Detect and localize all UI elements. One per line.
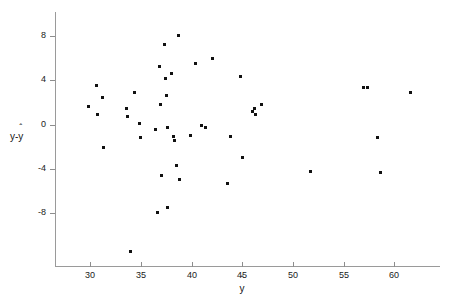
- data-point: [170, 72, 173, 75]
- data-point: [125, 107, 128, 110]
- data-point: [260, 103, 263, 106]
- data-point: [376, 136, 379, 139]
- y-axis-tick-label: 8: [24, 30, 46, 40]
- residual-scatter-plot: y-ŷ ŷ 840-4-830354045505560: [0, 0, 450, 307]
- x-axis-tick: [192, 262, 193, 267]
- x-axis-title-text: ŷ: [240, 283, 245, 294]
- data-point: [163, 43, 166, 46]
- data-point: [226, 182, 229, 185]
- data-point: [194, 62, 197, 65]
- data-point: [409, 91, 412, 94]
- data-point: [253, 107, 256, 110]
- y-axis-tick-label: 0: [24, 119, 46, 129]
- data-point: [239, 75, 242, 78]
- data-point: [362, 86, 365, 89]
- data-point: [173, 139, 176, 142]
- data-point: [129, 250, 132, 253]
- y-axis-title: y-ŷ: [10, 131, 23, 142]
- x-axis-line: [55, 266, 440, 267]
- data-point: [126, 115, 129, 118]
- y-axis-tick-label: -4: [24, 163, 46, 173]
- y-axis-tick: [50, 80, 55, 81]
- data-point: [211, 57, 214, 60]
- data-point: [379, 171, 382, 174]
- data-point: [164, 77, 167, 80]
- data-point: [95, 84, 98, 87]
- y-axis-tick: [50, 36, 55, 37]
- data-point: [178, 178, 181, 181]
- x-axis-tick-label: 60: [379, 270, 409, 280]
- data-point: [175, 164, 178, 167]
- y-axis-tick: [50, 213, 55, 214]
- data-point: [138, 122, 141, 125]
- data-point: [102, 146, 105, 149]
- x-axis-tick: [344, 262, 345, 267]
- data-point: [154, 128, 157, 131]
- y-axis-tick-label: -8: [24, 207, 46, 217]
- data-point: [241, 156, 244, 159]
- data-point: [133, 91, 136, 94]
- data-point: [158, 65, 161, 68]
- x-axis-tick-label: 45: [227, 270, 257, 280]
- data-point: [166, 126, 169, 129]
- data-point: [87, 105, 90, 108]
- y-axis-tick-label: 4: [24, 74, 46, 84]
- data-point: [189, 134, 192, 137]
- x-axis-tick: [90, 262, 91, 267]
- data-point: [165, 94, 168, 97]
- y-axis-tick: [50, 125, 55, 126]
- x-axis-tick: [242, 262, 243, 267]
- x-axis-tick-label: 35: [126, 270, 156, 280]
- data-point: [101, 96, 104, 99]
- data-point: [156, 211, 159, 214]
- x-axis-title: ŷ: [230, 283, 254, 294]
- data-point: [229, 135, 232, 138]
- y-axis-tick: [50, 169, 55, 170]
- x-axis-tick: [394, 262, 395, 267]
- x-axis-tick: [141, 262, 142, 267]
- data-point: [139, 136, 142, 139]
- x-axis-tick-label: 50: [278, 270, 308, 280]
- y-axis-title-text: y-ŷ: [10, 131, 23, 142]
- data-point: [166, 206, 169, 209]
- data-point: [177, 34, 180, 37]
- data-point: [254, 113, 257, 116]
- data-point: [309, 170, 312, 173]
- data-point: [366, 86, 369, 89]
- x-axis-tick: [293, 262, 294, 267]
- data-point: [160, 174, 163, 177]
- x-axis-tick-label: 40: [177, 270, 207, 280]
- y-axis-line: [55, 12, 56, 267]
- data-point: [200, 124, 203, 127]
- x-axis-tick-label: 55: [329, 270, 359, 280]
- x-axis-tick-label: 30: [75, 270, 105, 280]
- data-point: [204, 126, 207, 129]
- data-point: [159, 103, 162, 106]
- data-point: [96, 113, 99, 116]
